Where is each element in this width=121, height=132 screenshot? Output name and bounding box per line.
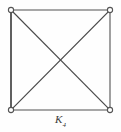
figure-caption: K4 — [0, 113, 121, 131]
caption-subscript: 4 — [62, 121, 66, 129]
vertex-top-right — [107, 7, 112, 12]
vertex-bottom-left — [8, 107, 13, 112]
vertex-bottom-right — [107, 107, 112, 112]
k4-graph-figure: K4 — [0, 0, 121, 132]
graph-canvas — [0, 0, 121, 118]
vertex-top-left — [8, 7, 13, 12]
